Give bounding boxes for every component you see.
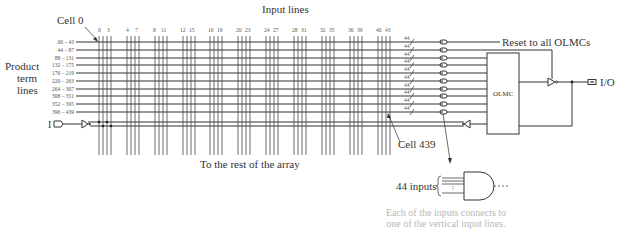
and-gate-icons [440, 40, 447, 114]
feedback-buffer-icon [462, 120, 470, 128]
svg-text:Product: Product [5, 60, 39, 72]
pld-array-diagram: Input lines Cell 0 Product term lines 00… [0, 0, 630, 239]
svg-text:11: 11 [161, 27, 167, 33]
row-label: 352 – 395 [52, 101, 74, 107]
row-label: 00 – 43 [58, 39, 75, 45]
svg-text:44: 44 [404, 97, 410, 103]
row-label: 396 – 439 [52, 109, 74, 115]
svg-text:0: 0 [98, 27, 101, 33]
row-label: 308 – 351 [52, 93, 74, 99]
rest-of-array-label: To the rest of the array [200, 158, 300, 170]
svg-text:4: 4 [126, 27, 129, 33]
caption: Each of the inputs connects to one of th… [386, 207, 506, 229]
input-buffer-icon [82, 120, 94, 128]
svg-text:one of the vertical input line: one of the vertical input lines. [386, 218, 505, 229]
svg-text:35: 35 [329, 27, 335, 33]
product-term-lines-label: Product term lines [5, 60, 39, 96]
svg-text:44: 44 [404, 43, 410, 49]
svg-text:12: 12 [180, 27, 186, 33]
svg-text:27: 27 [273, 27, 279, 33]
input-pin-label: I [48, 119, 51, 130]
svg-text:44: 44 [404, 74, 410, 80]
reset-label: Reset to all OLMCs [502, 36, 590, 48]
row-label: 176 – 219 [52, 70, 74, 76]
svg-text:lines: lines [17, 84, 38, 96]
tristate-buffer-icon [548, 78, 558, 86]
svg-text:20: 20 [236, 27, 242, 33]
svg-text:19: 19 [217, 27, 223, 33]
row-label: 264 – 307 [52, 86, 74, 92]
svg-text:23: 23 [245, 27, 251, 33]
olmc-block: OLMC [487, 53, 519, 134]
svg-text:39: 39 [357, 27, 363, 33]
svg-text:43: 43 [385, 27, 391, 33]
svg-text:15: 15 [189, 27, 195, 33]
io-pad-icon [588, 80, 596, 85]
cell0-arrow-icon [85, 27, 98, 42]
svg-text:OLMC: OLMC [493, 90, 514, 98]
input-pad-icon [54, 121, 63, 127]
svg-text:44: 44 [404, 35, 410, 41]
svg-text:44: 44 [404, 89, 410, 95]
row-labels: 00 – 43 44 – 87 88 – 131 132 – 175 176 –… [52, 39, 74, 115]
bus-width-markers: 44 44 44 44 44 44 44 44 44 44 [404, 35, 414, 115]
row-label: 88 – 131 [55, 55, 75, 61]
svg-text:Each of the inputs connects to: Each of the inputs connects to [386, 207, 506, 218]
svg-text:44: 44 [404, 58, 410, 64]
row-label: 220 – 263 [52, 78, 74, 84]
svg-text:44: 44 [404, 82, 410, 88]
svg-text:term: term [17, 72, 38, 84]
svg-text:16: 16 [208, 27, 214, 33]
svg-text:8: 8 [153, 27, 156, 33]
inputs-44-label: 44 inputs [396, 180, 437, 192]
svg-text:44: 44 [404, 105, 410, 111]
input-feed-lines [94, 122, 464, 126]
svg-text:36: 36 [348, 27, 354, 33]
and-gate-large-icon [442, 172, 510, 200]
svg-text:28: 28 [292, 27, 298, 33]
svg-text:40: 40 [376, 27, 382, 33]
io-label: I/O [600, 76, 615, 88]
svg-text:44: 44 [404, 51, 410, 57]
cell0-label: Cell 0 [57, 14, 84, 26]
svg-text:44: 44 [404, 66, 410, 72]
svg-text:31: 31 [301, 27, 307, 33]
svg-text:3: 3 [107, 27, 110, 33]
row-label: 44 – 87 [58, 47, 75, 53]
svg-text:7: 7 [135, 27, 138, 33]
bus-marker: 44 [404, 105, 414, 115]
input-lines-label: Input lines [262, 3, 309, 15]
row-label: 132 – 175 [52, 62, 74, 68]
input-brace-icon [436, 176, 441, 196]
column-labels: 03 47 811 1215 1619 2023 2427 2831 3235 … [98, 27, 391, 33]
cell439-label: Cell 439 [398, 138, 436, 150]
svg-text:24: 24 [264, 27, 270, 33]
svg-text:32: 32 [320, 27, 326, 33]
